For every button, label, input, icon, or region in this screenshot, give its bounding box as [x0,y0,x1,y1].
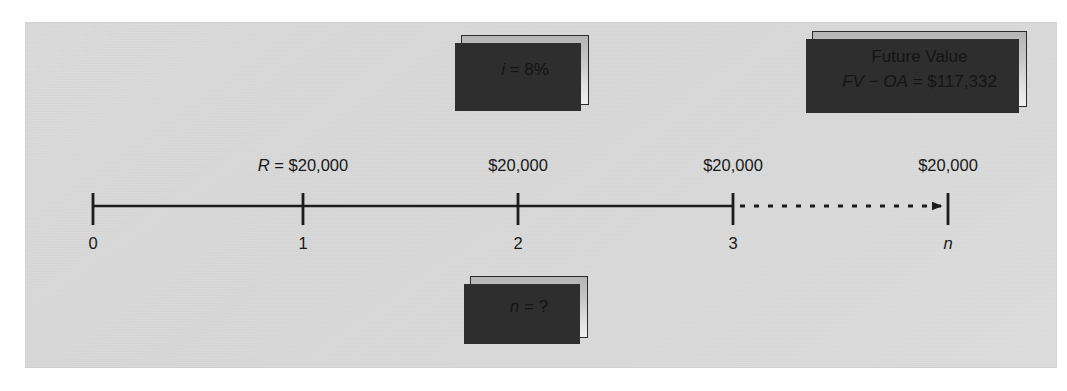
period-label-1: 1 [298,234,307,253]
interest-rate-text: i = 8% [501,59,549,80]
payment-amount-1: $20,000 [289,156,349,174]
rent-symbol: R [258,156,270,174]
payment-label-period-1: R = R = $20,000 $20,000 [258,156,348,175]
interest-rate-callout: i = 8% [461,35,589,105]
future-value-formula: FV − OA = $117,332 [842,71,997,92]
future-value-symbol: FV − OA [842,72,908,91]
period-label-3: 3 [728,234,737,253]
period-label-2: 2 [513,234,522,253]
payment-label-period-n: $20,000 [918,156,978,175]
payment-label-period-3: $20,000 [703,156,763,175]
future-value-operator: = [913,72,928,91]
periods-text: n = ? [510,296,548,317]
future-value-callout: Future Value FV − OA = $117,332 [812,31,1027,107]
periods-operator: = [524,297,539,316]
future-value-amount: $117,332 [927,72,997,91]
number-of-periods-callout: n = ? [470,276,588,338]
periods-symbol: n [510,297,519,316]
period-label-n: n [943,234,952,253]
future-value-title: Future Value [871,46,967,67]
interest-operator: = [510,60,525,79]
payment-label-period-2: $20,000 [488,156,548,175]
interest-value: 8% [524,60,549,79]
figure-panel: R = R = $20,000 $20,000 $20,000 $20,000 … [25,22,1057,368]
interest-symbol: i [501,60,505,79]
rent-equals: = [274,156,288,174]
periods-value: ? [539,297,548,316]
period-label-0: 0 [88,234,97,253]
